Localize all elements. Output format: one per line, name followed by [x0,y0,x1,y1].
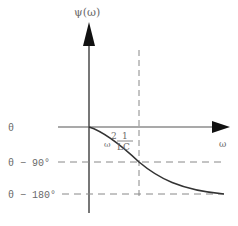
phase-curve [89,127,224,194]
annotation-numerator: 1 [122,131,128,141]
y-axis-arrowhead [83,22,95,46]
y-axis-label: ψ(ω) [74,6,100,19]
x-axis-label: ω [219,139,226,149]
level-label-theta: θ [8,123,14,134]
level-label-theta-minus-90: θ − 90° [8,158,50,169]
level-label-theta-minus-180: θ − 180° [8,190,56,201]
annotation-denominator: LC [117,142,130,152]
resonance-annotation: ω 2 1 LC [104,131,133,152]
annotation-omega: ω [104,140,111,149]
phase-response-diagram: ψ(ω) ω θ θ − 90° θ − 180° ω 2 1 LC [0,0,238,226]
x-axis-arrowhead [212,121,230,133]
annotation-exponent: 2 [111,131,117,141]
